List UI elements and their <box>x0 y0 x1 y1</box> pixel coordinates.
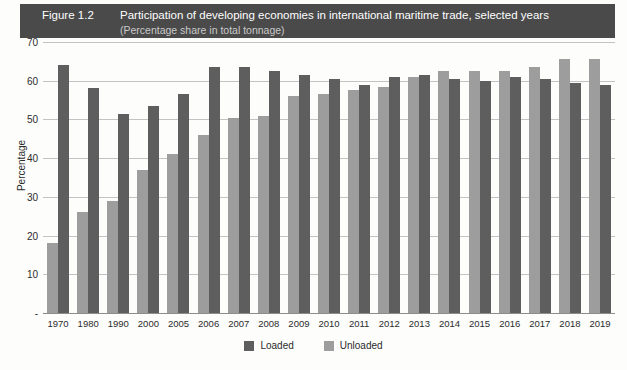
x-axis-tick-label-2006: 2006 <box>194 318 224 329</box>
x-axis-tick-label-2008: 2008 <box>254 318 284 329</box>
bar-loaded-1970[interactable] <box>58 65 69 313</box>
x-axis-labels: 1970198019902000200520062007200820092010… <box>43 318 615 329</box>
bar-loaded-2019[interactable] <box>600 85 611 313</box>
bar-loaded-2011[interactable] <box>359 85 370 313</box>
y-axis-tick-label: 60 <box>27 75 38 86</box>
bar-loaded-2015[interactable] <box>480 81 491 313</box>
x-axis-tick-label-1970: 1970 <box>43 318 73 329</box>
x-axis-baseline <box>43 313 615 314</box>
figure-container: Figure 1.2 Participation of developing e… <box>0 0 627 370</box>
y-axis-tick-label: - <box>35 308 38 319</box>
bar-group <box>344 42 374 313</box>
bar-group <box>133 42 163 313</box>
bar-unloaded-2006[interactable] <box>198 135 209 313</box>
x-axis-tick-label-2012: 2012 <box>374 318 404 329</box>
bar-loaded-2000[interactable] <box>148 106 159 313</box>
bar-unloaded-2017[interactable] <box>529 67 540 313</box>
bar-unloaded-2007[interactable] <box>228 118 239 314</box>
bar-loaded-2009[interactable] <box>299 75 310 313</box>
bar-loaded-2017[interactable] <box>540 79 551 313</box>
y-axis-label: Percentage <box>16 111 27 221</box>
bar-loaded-1980[interactable] <box>88 88 99 313</box>
bar-group <box>103 42 133 313</box>
bar-unloaded-1990[interactable] <box>107 201 118 313</box>
figure-number: Figure 1.2 <box>20 8 120 23</box>
bar-group <box>163 42 193 313</box>
x-axis-tick-label-2018: 2018 <box>555 318 585 329</box>
bar-group <box>525 42 555 313</box>
bar-unloaded-2019[interactable] <box>589 59 600 313</box>
x-axis-tick-label-2010: 2010 <box>314 318 344 329</box>
bar-group <box>495 42 525 313</box>
x-axis-tick-label-2016: 2016 <box>495 318 525 329</box>
x-axis-tick-label-2019: 2019 <box>585 318 615 329</box>
legend-item-unloaded[interactable]: Unloaded <box>324 340 383 351</box>
axis-area: -10203040506070 <box>43 42 615 314</box>
bar-unloaded-1970[interactable] <box>47 243 58 313</box>
x-axis-tick-label-2007: 2007 <box>224 318 254 329</box>
bar-unloaded-2011[interactable] <box>348 90 359 313</box>
y-axis-tick-label: 10 <box>27 269 38 280</box>
bar-unloaded-2010[interactable] <box>318 94 329 313</box>
bar-group <box>254 42 284 313</box>
bar-unloaded-2015[interactable] <box>469 71 480 313</box>
bar-loaded-2013[interactable] <box>419 75 430 313</box>
x-axis-tick-label-1990: 1990 <box>103 318 133 329</box>
legend-swatch-unloaded-icon <box>324 341 334 351</box>
bar-loaded-2014[interactable] <box>449 79 460 313</box>
bar-series-container <box>43 42 615 313</box>
y-axis-tick-label: 50 <box>27 114 38 125</box>
bar-unloaded-2014[interactable] <box>438 71 449 313</box>
bar-unloaded-1980[interactable] <box>77 212 88 313</box>
bar-group <box>194 42 224 313</box>
bar-group <box>284 42 314 313</box>
x-axis-tick-label-2014: 2014 <box>434 318 464 329</box>
y-axis-tick-label: 30 <box>27 191 38 202</box>
bar-loaded-2018[interactable] <box>570 83 581 313</box>
bar-loaded-2007[interactable] <box>239 67 250 313</box>
title-row: Figure 1.2 Participation of developing e… <box>20 8 615 23</box>
bar-loaded-2005[interactable] <box>178 94 189 313</box>
bar-group <box>73 42 103 313</box>
bar-group <box>224 42 254 313</box>
bar-unloaded-2009[interactable] <box>288 96 299 313</box>
bar-unloaded-2000[interactable] <box>137 170 148 313</box>
bar-group <box>374 42 404 313</box>
bar-group <box>555 42 585 313</box>
bar-group <box>404 42 434 313</box>
bar-unloaded-2016[interactable] <box>499 71 510 313</box>
y-axis-tick-label: 70 <box>27 37 38 48</box>
bar-group <box>585 42 615 313</box>
bar-group <box>43 42 73 313</box>
bar-unloaded-2008[interactable] <box>258 116 269 313</box>
legend-swatch-loaded-icon <box>244 341 254 351</box>
x-axis-tick-label-2000: 2000 <box>133 318 163 329</box>
chart-legend: Loaded Unloaded <box>0 340 627 351</box>
bar-loaded-1990[interactable] <box>118 114 129 313</box>
bar-group <box>314 42 344 313</box>
plot-area: Percentage -10203040506070 1970198019902… <box>0 42 627 328</box>
x-axis-tick-label-2015: 2015 <box>465 318 495 329</box>
legend-item-loaded[interactable]: Loaded <box>244 340 293 351</box>
bar-loaded-2012[interactable] <box>389 77 400 313</box>
bar-unloaded-2013[interactable] <box>408 77 419 313</box>
figure-title-bar: Figure 1.2 Participation of developing e… <box>20 4 615 38</box>
bar-loaded-2008[interactable] <box>269 71 280 313</box>
bar-group <box>465 42 495 313</box>
bar-unloaded-2012[interactable] <box>378 87 389 313</box>
x-axis-tick-label-2013: 2013 <box>404 318 434 329</box>
bar-loaded-2010[interactable] <box>329 79 340 313</box>
figure-subtitle: (Percentage share in total tonnage) <box>120 23 615 38</box>
y-axis-tick-label: 20 <box>27 230 38 241</box>
legend-label-loaded: Loaded <box>260 340 293 351</box>
x-axis-tick-label-2011: 2011 <box>344 318 374 329</box>
bar-loaded-2016[interactable] <box>510 77 521 313</box>
figure-title: Participation of developing economies in… <box>120 8 549 23</box>
bar-unloaded-2018[interactable] <box>559 59 570 313</box>
x-axis-tick-label-2017: 2017 <box>525 318 555 329</box>
bar-unloaded-2005[interactable] <box>167 154 178 313</box>
y-axis-tick-label: 40 <box>27 153 38 164</box>
x-axis-tick-label-2005: 2005 <box>163 318 193 329</box>
bar-group <box>434 42 464 313</box>
bar-loaded-2006[interactable] <box>209 67 220 313</box>
